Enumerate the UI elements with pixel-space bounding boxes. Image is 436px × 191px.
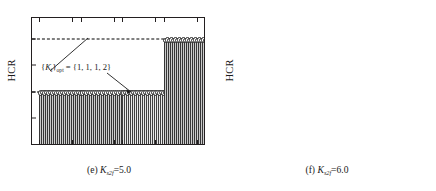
x-tick-mark: [155, 140, 156, 144]
caption-f: (f) Ks2f=6.0: [218, 164, 436, 175]
y-axis-label-f: HCR: [222, 0, 236, 140]
x-tick-mark: [81, 140, 82, 144]
bar-group-b1: [39, 92, 72, 145]
x-tick-mark: [197, 18, 198, 22]
panel-e: HCR 00.51.01.52.02.4B1B2B3B4 {Ki}opt = {…: [0, 0, 218, 191]
y-tick-mark: [32, 117, 36, 118]
bar: [204, 40, 205, 144]
plot-area-e: 00.51.01.52.02.4B1B2B3B4: [31, 17, 205, 145]
annotation-text-e: {Ki}opt = {1, 1, 1, 2}: [41, 63, 111, 72]
x-tick-mark: [164, 18, 165, 22]
x-tick-mark: [114, 18, 115, 22]
x-tick-mark: [197, 140, 198, 144]
x-tick-mark: [155, 18, 156, 22]
x-tick-mark: [39, 140, 40, 144]
x-tick-mark: [164, 140, 165, 144]
bar-top-circle-marker: [203, 38, 205, 44]
y-axis-label-e: HCR: [4, 0, 18, 140]
panel-f: HCR 01.02.03.03.4B1B2B3B4 {Ki}opt = {1, …: [218, 0, 436, 191]
figure-two-panel-bar-charts: HCR 00.51.01.52.02.4B1B2B3B4 {Ki}opt = {…: [0, 0, 436, 191]
y-tick-mark: [32, 65, 36, 66]
caption-e: (e) Ks2f=5.0: [0, 164, 218, 175]
y-tick-label: 2.4: [31, 17, 32, 23]
x-tick-mark: [72, 140, 73, 144]
x-tick-mark: [122, 140, 123, 144]
x-tick-mark: [72, 18, 73, 22]
x-tick-mark: [114, 140, 115, 144]
x-tick-mark: [39, 18, 40, 22]
bar-group-b4: [164, 39, 197, 144]
bar-group-b2: [81, 92, 114, 145]
bar-group-b3: [122, 92, 155, 145]
x-tick-mark: [81, 18, 82, 22]
y-tick-label: 0: [31, 139, 32, 145]
x-tick-mark: [122, 18, 123, 22]
